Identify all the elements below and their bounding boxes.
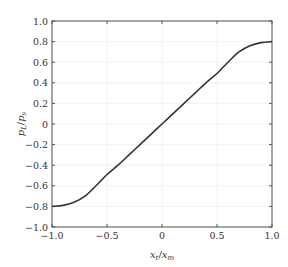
x-tick-label: 0: [159, 230, 165, 241]
x-tick-label: −0.5: [95, 230, 118, 241]
x-tick-label: 1.0: [264, 230, 279, 241]
y-axis-label: pL/ps: [15, 111, 28, 136]
y-tick-label: 0.2: [33, 98, 48, 109]
y-tick-label: 0: [42, 119, 48, 130]
y-tick-label: −0.6: [25, 180, 48, 191]
y-tick-label: 0.6: [33, 57, 48, 68]
x-tick-label: −1.0: [40, 230, 63, 241]
y-tick-label: 0.4: [33, 77, 48, 88]
x-axis-label: xt/xm: [150, 249, 174, 262]
y-tick-label: −0.2: [25, 139, 48, 150]
y-tick-label: −0.8: [25, 201, 48, 212]
y-tick-label: 0.8: [33, 36, 48, 47]
y-tick-label: −0.4: [25, 160, 48, 171]
x-tick-labels: −1.0−0.500.51.0: [40, 230, 279, 241]
y-tick-label: 1.0: [33, 16, 48, 27]
y-tick-labels: −1.0−0.8−0.6−0.4−0.200.20.40.60.81.0: [25, 16, 48, 233]
x-tick-label: 0.5: [209, 230, 224, 241]
line-chart: −1.0−0.8−0.6−0.4−0.200.20.40.60.81.0 −1.…: [0, 0, 288, 267]
